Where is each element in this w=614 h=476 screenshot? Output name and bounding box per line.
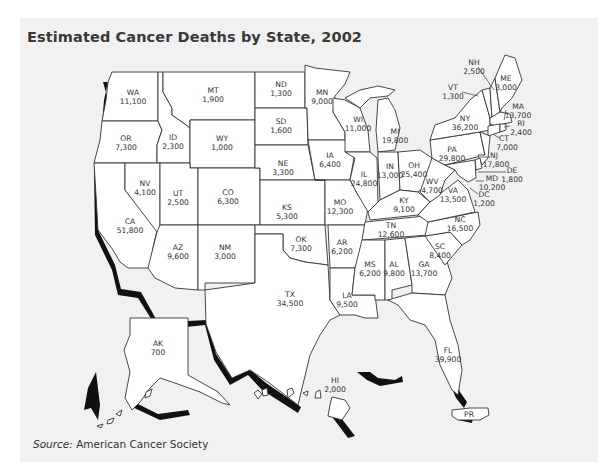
- svg-text:WA: WA: [127, 88, 140, 97]
- us-map: WA 11,100 OR 7,300 CA 51,800 ID 2,300 NV…: [0, 0, 614, 476]
- svg-text:WY: WY: [216, 134, 229, 143]
- svg-text:4,700: 4,700: [421, 186, 443, 195]
- svg-text:12,300: 12,300: [327, 207, 354, 216]
- svg-text:ME: ME: [500, 74, 512, 83]
- svg-text:CA: CA: [125, 217, 136, 226]
- hawaii-island: [303, 391, 308, 396]
- svg-text:OR: OR: [120, 134, 132, 143]
- svg-text:700: 700: [151, 348, 166, 357]
- svg-text:51,800: 51,800: [117, 226, 144, 235]
- svg-text:7,300: 7,300: [290, 244, 312, 253]
- svg-text:6,400: 6,400: [319, 160, 341, 169]
- svg-text:DC: DC: [478, 190, 489, 199]
- svg-text:VA: VA: [448, 186, 459, 195]
- svg-text:RI: RI: [517, 119, 525, 128]
- svg-text:ID: ID: [169, 133, 177, 142]
- svg-text:MD: MD: [486, 174, 499, 183]
- svg-text:13,000: 13,000: [377, 171, 404, 180]
- svg-text:AZ: AZ: [173, 243, 183, 252]
- svg-text:CO: CO: [222, 188, 233, 197]
- svg-text:KY: KY: [399, 196, 409, 205]
- hawaii-island: [262, 388, 268, 396]
- svg-text:PA: PA: [447, 145, 457, 154]
- svg-text:6,300: 6,300: [217, 197, 239, 206]
- svg-text:1,300: 1,300: [270, 89, 292, 98]
- svg-text:HI: HI: [331, 376, 339, 385]
- source-text: American Cancer Society: [73, 438, 209, 450]
- svg-text:WV: WV: [426, 177, 440, 186]
- svg-text:2,000: 2,000: [324, 385, 346, 394]
- svg-text:NE: NE: [278, 159, 289, 168]
- source-prefix: Source:: [33, 438, 73, 450]
- svg-text:OH: OH: [408, 161, 420, 170]
- svg-text:NY: NY: [460, 114, 471, 123]
- alaska-island: [97, 424, 103, 428]
- svg-text:CT: CT: [499, 134, 509, 143]
- svg-text:OK: OK: [296, 235, 308, 244]
- svg-text:SC: SC: [435, 242, 445, 251]
- svg-text:19,800: 19,800: [382, 136, 409, 145]
- svg-text:7,000: 7,000: [496, 143, 518, 152]
- svg-text:WI: WI: [353, 115, 363, 124]
- svg-text:IA: IA: [326, 151, 334, 160]
- svg-text:NM: NM: [219, 243, 231, 252]
- source-note: Source: American Cancer Society: [33, 438, 208, 450]
- svg-text:GA: GA: [418, 260, 430, 269]
- svg-text:AR: AR: [337, 238, 348, 247]
- svg-text:9,500: 9,500: [336, 300, 358, 309]
- alaska-island: [116, 410, 122, 416]
- svg-text:IL: IL: [361, 170, 368, 179]
- svg-text:TX: TX: [284, 290, 295, 299]
- svg-text:UT: UT: [173, 189, 184, 198]
- svg-text:11,000: 11,000: [345, 124, 372, 133]
- svg-text:11,100: 11,100: [120, 97, 147, 106]
- svg-text:VT: VT: [448, 83, 458, 92]
- svg-text:TN: TN: [385, 221, 396, 230]
- svg-text:34,500: 34,500: [277, 299, 304, 308]
- svg-text:2,300: 2,300: [162, 142, 184, 151]
- label-WA-abbr: WA: [127, 88, 140, 97]
- svg-text:MA: MA: [512, 102, 525, 111]
- svg-text:AL: AL: [389, 260, 399, 269]
- svg-text:MN: MN: [316, 88, 328, 97]
- svg-text:9,100: 9,100: [393, 205, 415, 214]
- svg-text:MT: MT: [207, 86, 219, 95]
- svg-text:2,500: 2,500: [463, 67, 485, 76]
- state-HI[interactable]: [328, 397, 350, 420]
- svg-text:3,000: 3,000: [495, 83, 517, 92]
- svg-text:13,700: 13,700: [411, 269, 438, 278]
- svg-text:9,800: 9,800: [383, 269, 405, 278]
- svg-text:3,000: 3,000: [214, 252, 236, 261]
- svg-text:NH: NH: [468, 58, 479, 67]
- svg-text:IN: IN: [386, 162, 394, 171]
- svg-text:8,400: 8,400: [429, 251, 451, 260]
- svg-text:13,500: 13,500: [440, 195, 467, 204]
- svg-text:12,600: 12,600: [378, 230, 405, 239]
- svg-text:NJ: NJ: [490, 151, 498, 160]
- alaska-island: [107, 418, 114, 424]
- hawaii-island: [315, 390, 321, 398]
- state-RI[interactable]: [500, 124, 506, 132]
- svg-text:1,000: 1,000: [211, 143, 233, 152]
- svg-text:5,300: 5,300: [276, 212, 298, 221]
- svg-text:MI: MI: [391, 127, 400, 136]
- svg-text:36,200: 36,200: [452, 123, 479, 132]
- svg-text:4,100: 4,100: [134, 188, 156, 197]
- svg-text:24,800: 24,800: [351, 179, 378, 188]
- svg-text:DE: DE: [507, 166, 518, 175]
- svg-text:2,400: 2,400: [510, 128, 532, 137]
- svg-text:LA: LA: [342, 291, 352, 300]
- svg-text:16,500: 16,500: [447, 224, 474, 233]
- svg-text:ND: ND: [275, 80, 287, 89]
- svg-text:9,600: 9,600: [167, 252, 189, 261]
- svg-text:MS: MS: [364, 260, 376, 269]
- svg-text:2,500: 2,500: [167, 198, 189, 207]
- svg-text:1,200: 1,200: [473, 199, 495, 208]
- hawaii-island: [254, 390, 262, 399]
- svg-text:29,800: 29,800: [439, 154, 466, 163]
- svg-text:1,600: 1,600: [270, 126, 292, 135]
- svg-text:7,300: 7,300: [115, 143, 137, 152]
- svg-text:NV: NV: [140, 179, 152, 188]
- svg-text:17,800: 17,800: [483, 160, 510, 169]
- svg-text:FL: FL: [444, 346, 453, 355]
